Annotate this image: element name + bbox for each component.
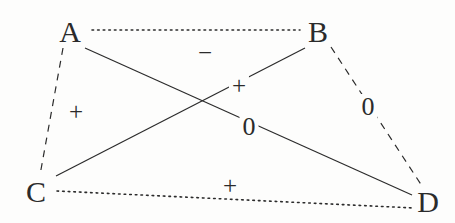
- node-label-d: D: [417, 187, 439, 217]
- edge-sign-a-b: −: [195, 40, 215, 65]
- edge-sign-b-c: +: [229, 73, 249, 98]
- node-label-c: C: [26, 177, 46, 207]
- edge-sign-c-d: +: [220, 173, 240, 198]
- graph-diagram: A B C D − + 0 + 0 +: [0, 0, 455, 223]
- edge-b-c: [56, 48, 305, 176]
- edge-sign-a-d: 0: [240, 114, 259, 140]
- edge-sign-a-c: +: [66, 99, 86, 124]
- edge-a-c: [40, 48, 63, 175]
- node-label-b: B: [308, 17, 328, 47]
- edge-sign-b-d: 0: [359, 94, 378, 120]
- node-label-a: A: [59, 17, 81, 47]
